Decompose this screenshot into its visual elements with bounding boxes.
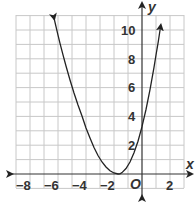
x-axis-label: x [185,156,195,172]
svg-text:2: 2 [128,138,135,153]
y-axis-label: y [147,0,157,15]
svg-text:−2: −2 [100,178,115,193]
origin-label: O [130,176,141,192]
parabola-curve [54,17,161,174]
svg-text:6: 6 [128,80,135,95]
svg-text:−6: −6 [44,178,59,193]
svg-text:4: 4 [128,109,136,124]
svg-text:−8: −8 [16,178,31,193]
parabola-graph: −8 −6 −4 −2 2 2 4 6 8 10 O x y [0,0,195,207]
svg-text:10: 10 [121,23,135,38]
svg-text:−4: −4 [72,178,88,193]
svg-text:2: 2 [166,178,173,193]
x-tick-labels: −8 −6 −4 −2 2 [16,178,173,193]
svg-text:8: 8 [128,52,135,67]
